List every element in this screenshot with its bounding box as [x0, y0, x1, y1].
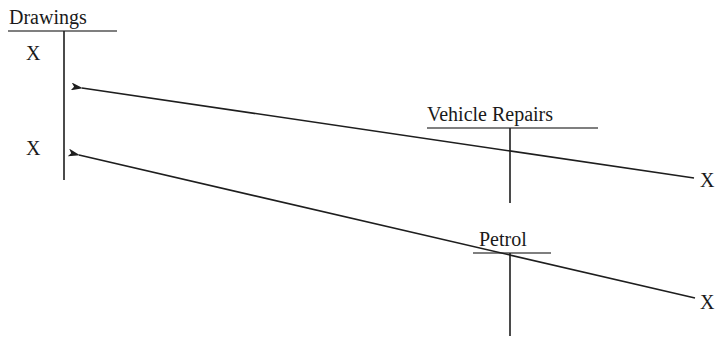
petrol-account: Petrol X [473, 228, 715, 336]
vehicle-repairs-title: Vehicle Repairs [427, 103, 553, 126]
drawings-account: Drawings X X [8, 6, 117, 180]
drawings-title: Drawings [9, 6, 87, 29]
vehicle-repairs-credit-entry: X [700, 169, 715, 191]
petrol-title: Petrol [479, 228, 527, 250]
vehicle-repairs-account: Vehicle Repairs X [427, 103, 715, 203]
arrow-vehicle-repairs-to-drawings [82, 88, 694, 178]
drawings-debit-entry-1: X [26, 42, 41, 64]
drawings-debit-entry-2: X [26, 137, 41, 159]
petrol-credit-entry: X [700, 291, 715, 313]
t-account-diagram: Drawings X X Vehicle Repairs X Petrol X [0, 0, 728, 347]
arrow-petrol-to-drawings [79, 155, 695, 298]
